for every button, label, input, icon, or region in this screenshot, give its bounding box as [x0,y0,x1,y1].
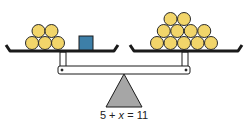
scale-frame [58,52,190,74]
equation-right: = 11 [124,109,148,121]
unknown-x-box [79,36,93,50]
equation-left: 5 + [100,109,119,121]
right-coins [151,13,218,50]
equation-label: 5 + x = 11 [0,109,248,121]
left-coins [26,25,65,50]
fulcrum-triangle [106,74,142,107]
balance-scale-diagram: 5 + x = 11 [0,0,248,131]
